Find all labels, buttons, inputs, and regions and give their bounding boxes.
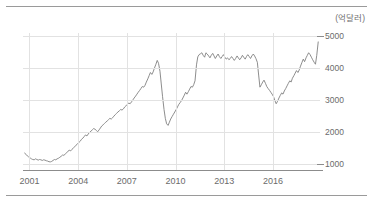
y-axis-tick-mark-1000	[317, 164, 324, 165]
y-axis-tick-label-3000: 3000	[325, 95, 344, 105]
gridline-vertical-2016	[273, 33, 274, 170]
gridline-horizontal-2000	[23, 132, 320, 133]
x-axis-line	[23, 170, 323, 171]
x-axis-tick-label-2001: 2001	[19, 176, 39, 186]
y-axis-tick-label-4000: 4000	[325, 63, 344, 73]
top-divider-rule	[6, 6, 367, 7]
y-axis-tick-label-2000: 2000	[325, 127, 344, 137]
gridline-horizontal-1000	[23, 164, 320, 165]
gridline-horizontal-5000	[23, 36, 320, 37]
y-axis-tick-label-5000: 5000	[325, 31, 344, 41]
x-axis-tick-label-2010: 2010	[166, 176, 186, 186]
y-axis-tick-mark-5000	[317, 36, 324, 37]
gridline-vertical-2004	[78, 33, 79, 170]
gridline-vertical-2001	[29, 33, 30, 170]
x-axis-tick-label-2013: 2013	[214, 176, 234, 186]
bottom-divider-rule	[6, 195, 367, 196]
line-series-path	[23, 33, 320, 170]
x-axis-tick-label-2016: 2016	[263, 176, 283, 186]
chart-figure: (억달러) 10002000300040005000 2001200420072…	[0, 0, 373, 204]
gridline-vertical-2007	[127, 33, 128, 170]
gridline-vertical-2013	[224, 33, 225, 170]
y-axis-unit-label: (억달러)	[335, 11, 365, 23]
gridline-horizontal-3000	[23, 100, 320, 101]
x-axis-tick-label-2004: 2004	[68, 176, 88, 186]
plot-area	[23, 33, 320, 170]
gridline-horizontal-4000	[23, 68, 320, 69]
gridline-vertical-2010	[176, 33, 177, 170]
x-axis-tick-label-2007: 2007	[117, 176, 137, 186]
y-axis-tick-label-1000: 1000	[325, 159, 344, 169]
